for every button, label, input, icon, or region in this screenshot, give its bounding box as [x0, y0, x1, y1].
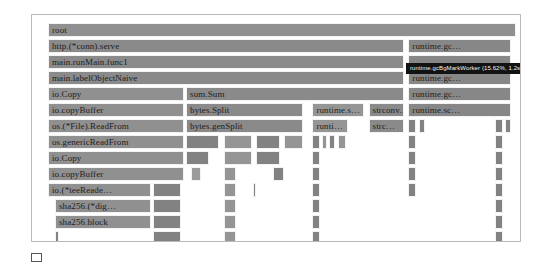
- flame-frame-unlabeled[interactable]: [312, 183, 319, 197]
- flame-frame-unlabeled[interactable]: [312, 199, 319, 213]
- flame-frame[interactable]: main.labelObjectNaive: [48, 71, 404, 85]
- flame-frame-unlabeled[interactable]: [273, 167, 284, 181]
- flame-frame[interactable]: io.copyBuffer: [48, 103, 184, 117]
- flame-frame-unlabeled[interactable]: [312, 167, 319, 181]
- flame-frame-unlabeled[interactable]: [322, 135, 327, 149]
- flame-frame-unlabeled[interactable]: [495, 231, 502, 242]
- frame-tooltip: runtime.gcBgMarkWorker (15.62%, 1.2s): [406, 63, 521, 74]
- flame-frame-unlabeled[interactable]: [419, 119, 426, 133]
- flame-frame[interactable]: io.Copy: [48, 151, 184, 165]
- flame-frame[interactable]: sha256.(*dig…: [55, 199, 151, 213]
- flame-frame-unlabeled[interactable]: [284, 135, 303, 149]
- flame-frame[interactable]: io.(*teeReade…: [48, 183, 151, 197]
- flame-frame-unlabeled[interactable]: [224, 167, 236, 181]
- flame-frame[interactable]: runtime.s…: [312, 103, 363, 117]
- flame-frame-unlabeled[interactable]: [329, 135, 336, 149]
- flame-frame-unlabeled[interactable]: [505, 119, 512, 133]
- flame-frame-unlabeled[interactable]: [495, 183, 502, 197]
- flame-frame-unlabeled[interactable]: [186, 135, 219, 149]
- flame-frame-unlabeled[interactable]: [338, 135, 345, 149]
- flame-graph-panel: roothttp.(*conn).serveruntime.gc…main.ru…: [31, 14, 521, 242]
- flame-frame-unlabeled[interactable]: [224, 199, 236, 213]
- flame-frame-unlabeled[interactable]: [191, 167, 201, 181]
- flame-frame[interactable]: io.Copy: [48, 87, 184, 101]
- flame-frame-unlabeled[interactable]: [408, 167, 415, 181]
- flame-frame-unlabeled[interactable]: [408, 151, 415, 165]
- flame-frame-unlabeled[interactable]: [495, 215, 502, 229]
- flame-frame-unlabeled[interactable]: [408, 119, 415, 133]
- flame-frame-unlabeled[interactable]: [153, 215, 181, 229]
- figure-caption: [31, 252, 531, 263]
- flame-frame-unlabeled[interactable]: [153, 231, 181, 242]
- flame-frame-unlabeled[interactable]: [153, 183, 181, 197]
- flame-frame-unlabeled[interactable]: [312, 151, 319, 165]
- flame-frame-unlabeled[interactable]: [312, 215, 319, 229]
- flame-frame-unlabeled[interactable]: [256, 135, 279, 149]
- flame-frame[interactable]: os.(*File).ReadFrom: [48, 119, 184, 133]
- flame-frame[interactable]: bytes.Split: [186, 103, 303, 117]
- flame-frame[interactable]: sha256.block: [55, 215, 151, 229]
- flame-frame[interactable]: os.genericReadFrom: [48, 135, 184, 149]
- flame-frame[interactable]: bytes.genSplit: [186, 119, 303, 133]
- flame-frame-unlabeled[interactable]: [224, 231, 236, 242]
- flame-frame-unlabeled[interactable]: [408, 135, 415, 149]
- flame-frame-unlabeled[interactable]: [224, 135, 252, 149]
- flame-frame-unlabeled[interactable]: [224, 151, 252, 165]
- flame-frame[interactable]: io.copyBuffer: [48, 167, 184, 181]
- flame-frame-unlabeled[interactable]: [253, 183, 256, 197]
- flame-frame-unlabeled[interactable]: [312, 231, 319, 242]
- flame-frame[interactable]: runtime.gc…: [408, 39, 511, 53]
- flame-frame[interactable]: sum.Sum: [186, 87, 404, 101]
- flame-frame-unlabeled[interactable]: [55, 231, 59, 242]
- flame-graph-canvas[interactable]: roothttp.(*conn).serveruntime.gc…main.ru…: [32, 15, 520, 241]
- flame-frame[interactable]: strconv.…: [369, 103, 404, 117]
- flame-frame-unlabeled[interactable]: [312, 135, 319, 149]
- flame-frame-unlabeled[interactable]: [256, 151, 279, 165]
- flame-frame-unlabeled[interactable]: [224, 183, 236, 197]
- flame-frame-unlabeled[interactable]: [153, 199, 181, 213]
- flame-frame[interactable]: root: [48, 23, 516, 37]
- flame-graph-figure: roothttp.(*conn).serveruntime.gc…main.ru…: [0, 0, 553, 263]
- flame-frame-unlabeled[interactable]: [495, 119, 502, 133]
- flame-frame-unlabeled[interactable]: [495, 167, 502, 181]
- flame-frame-unlabeled[interactable]: [186, 151, 209, 165]
- flame-frame-unlabeled[interactable]: [495, 151, 502, 165]
- flame-frame-unlabeled[interactable]: [224, 215, 236, 229]
- caption-marker-icon: [31, 253, 42, 262]
- flame-frame[interactable]: runti…: [312, 119, 347, 133]
- flame-frame[interactable]: runtime.sc…: [408, 103, 511, 117]
- flame-frame[interactable]: http.(*conn).serve: [48, 39, 404, 53]
- flame-frame-unlabeled[interactable]: [408, 183, 415, 197]
- flame-frame[interactable]: strc…: [369, 119, 404, 133]
- flame-frame-unlabeled[interactable]: [495, 135, 502, 149]
- flame-frame[interactable]: main.runMain.func1: [48, 55, 404, 69]
- flame-frame-unlabeled[interactable]: [495, 199, 502, 213]
- flame-frame[interactable]: runtime.gc…: [408, 87, 511, 101]
